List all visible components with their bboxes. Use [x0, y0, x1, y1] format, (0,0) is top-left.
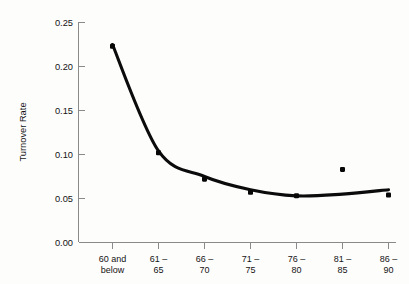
chart-figure: 0.25 0.20 0.15 0.10 0.05 0.00 Turnover R… — [0, 0, 409, 284]
x-tick-label-6-line1: 86 – — [380, 254, 398, 264]
x-tick-label-0-line2: below — [101, 265, 125, 275]
x-tick-label-1-line2: 65 — [153, 265, 163, 275]
y-tick-label-2: 0.15 — [55, 106, 73, 116]
data-point — [202, 177, 207, 182]
fitted-curve — [113, 45, 389, 197]
x-tick-label-5-line1: 81 – — [334, 254, 352, 264]
x-tick-label-2-line1: 66 – — [196, 254, 214, 264]
x-tick-label-4-line2: 80 — [291, 265, 301, 275]
y-tick-label-5: 0.00 — [55, 238, 73, 248]
data-point — [340, 167, 345, 172]
y-tick-label-0: 0.25 — [55, 18, 73, 28]
x-tick-label-4-line1: 76 – — [288, 254, 306, 264]
y-tick-label-4: 0.05 — [55, 194, 73, 204]
data-point-group — [110, 44, 391, 199]
x-tick-label-0-line1: 60 and — [99, 254, 127, 264]
x-tick-label-3-line1: 71 – — [242, 254, 260, 264]
y-tick-label-3: 0.10 — [55, 150, 73, 160]
x-tick-label-6-line2: 90 — [383, 265, 393, 275]
x-tick-label-5-line2: 85 — [337, 265, 347, 275]
data-point — [156, 150, 161, 155]
y-axis-title: Turnover Rate — [18, 102, 28, 161]
x-tick-label-2-line2: 70 — [199, 265, 209, 275]
data-point — [248, 190, 253, 195]
x-tick-label-1-line1: 61 – — [150, 254, 168, 264]
data-point — [110, 44, 115, 49]
y-tick-label-1: 0.20 — [55, 62, 73, 72]
data-point — [386, 192, 391, 197]
x-tick-label-3-line2: 75 — [245, 265, 255, 275]
chart-plot-area: 0.25 0.20 0.15 0.10 0.05 0.00 Turnover R… — [0, 0, 409, 284]
data-point — [294, 193, 299, 198]
